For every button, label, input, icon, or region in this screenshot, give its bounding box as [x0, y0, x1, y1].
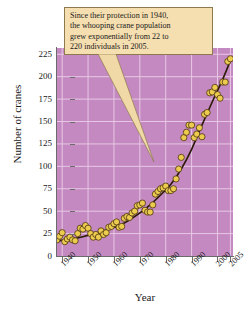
plot-area	[57, 48, 233, 256]
data-point	[147, 209, 153, 215]
data-point	[59, 230, 65, 236]
annotation-line: the whooping crane population	[70, 21, 208, 31]
data-point	[183, 129, 189, 135]
y-tick-label: 0	[48, 252, 53, 261]
annotation-text: Since their protection in 1940,the whoop…	[70, 11, 208, 52]
y-tick-label: 225	[39, 50, 53, 59]
y-tick-label: 25	[43, 229, 52, 238]
x-axis-title: Year	[57, 291, 233, 303]
data-point	[196, 125, 202, 131]
y-tick-mark	[70, 189, 75, 190]
data-point	[170, 186, 176, 192]
data-point	[72, 238, 78, 244]
y-tick-label: 50	[43, 207, 52, 216]
y-axis-title: Number of cranes	[11, 76, 23, 172]
whooping-crane-population-chart: 0255075100125150175200225 Number of cran…	[0, 0, 247, 309]
y-tick-label: 75	[43, 184, 52, 193]
plot-canvas	[57, 48, 233, 256]
data-point	[204, 109, 210, 115]
data-point	[212, 84, 218, 90]
data-point	[188, 122, 194, 128]
data-point	[227, 56, 233, 62]
data-point	[178, 154, 184, 160]
y-tick-mark	[70, 77, 75, 78]
annotation-line: Since their protection in 1940,	[70, 11, 208, 21]
trend-curve	[57, 61, 230, 241]
data-point	[173, 176, 179, 182]
y-tick-mark	[70, 166, 75, 167]
y-tick-mark	[70, 99, 75, 100]
annotation-line: grew exponentially from 22 to	[70, 32, 208, 42]
y-tick-label: 200	[39, 72, 53, 81]
y-tick-mark	[70, 144, 75, 145]
y-tick-mark	[70, 122, 75, 123]
y-axis-tick-labels: 0255075100125150175200225	[18, 40, 52, 264]
y-tick-label: 125	[39, 139, 53, 148]
data-point	[119, 223, 125, 229]
data-point	[199, 134, 205, 140]
y-tick-mark	[70, 211, 75, 212]
data-point	[176, 166, 182, 172]
y-axis-line	[56, 47, 57, 257]
data-point	[139, 200, 145, 206]
data-point	[150, 202, 156, 208]
annotation-line: 220 individuals in 2005.	[70, 42, 208, 52]
annotation-callout: Since their protection in 1940,the whoop…	[64, 7, 213, 55]
y-tick-label: 100	[39, 162, 53, 171]
y-tick-label: 150	[39, 117, 53, 126]
y-tick-label: 175	[39, 95, 53, 104]
data-point	[222, 79, 228, 85]
data-point	[217, 95, 223, 101]
y-tick-mark	[70, 234, 75, 235]
data-points	[57, 56, 233, 245]
